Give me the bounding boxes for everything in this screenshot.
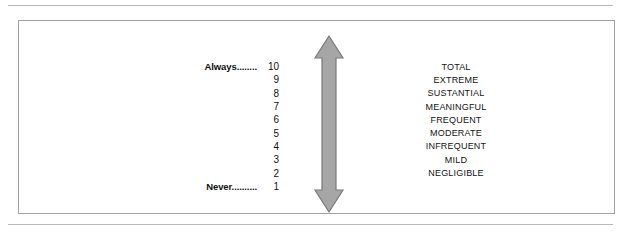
descriptor-label: MILD [445,155,467,165]
descriptor-row: EXTREME [376,73,536,86]
scale-row: Never.......... 1 [169,180,279,193]
scale-row: 9 [169,73,279,86]
descriptor-row: MODERATE [376,126,536,139]
descriptor-row: FREQUENT [376,113,536,126]
scale-number: 10 [261,61,279,72]
scale-row: 3 [169,153,279,166]
descriptor-label: FREQUENT [430,115,481,125]
scale-row: Always........ 10 [169,60,279,73]
double-headed-vertical-arrow-icon [304,34,354,214]
descriptor-label: SUSTANTIAL [428,88,485,98]
scale-number: 1 [261,181,279,192]
horizontal-rule-top [8,5,613,6]
descriptor-label: TOTAL [441,62,470,72]
scale-row: 4 [169,140,279,153]
descriptor-label: NEGLIGIBLE [428,168,484,178]
scale-row: 5 [169,126,279,139]
scale-row: 2 [169,166,279,179]
descriptor-label: MODERATE [430,128,482,138]
anchor-label-never: Never.......... [206,181,257,192]
descriptor-row: MILD [376,153,536,166]
scale-row: 8 [169,87,279,100]
horizontal-rule-bottom [8,224,613,225]
scale-number: 8 [261,88,279,99]
descriptor-row: SUSTANTIAL [376,87,536,100]
rating-scale-figure: Always........ 10 9 8 7 6 5 [18,20,615,214]
scale-number: 7 [261,101,279,112]
descriptor-column: TOTAL EXTREME SUSTANTIAL MEANINGFUL FREQ… [376,60,536,193]
anchor-label-always: Always........ [205,61,257,72]
descriptor-row: MEANINGFUL [376,100,536,113]
scale-number-column: Always........ 10 9 8 7 6 5 [169,60,279,193]
scale-number: 9 [261,74,279,85]
figure-page: Always........ 10 9 8 7 6 5 [0,0,633,233]
scale-row: 7 [169,100,279,113]
descriptor-label: EXTREME [434,75,479,85]
scale-number: 4 [261,141,279,152]
scale-number: 3 [261,154,279,165]
descriptor-row: NEGLIGIBLE [376,166,536,179]
descriptor-row: INFREQUENT [376,140,536,153]
scale-row: 6 [169,113,279,126]
scale-number: 5 [261,128,279,139]
descriptor-label: MEANINGFUL [425,102,486,112]
descriptor-row [376,180,536,193]
descriptor-label: INFREQUENT [426,141,487,151]
scale-number: 6 [261,114,279,125]
descriptor-row: TOTAL [376,60,536,73]
scale-number: 2 [261,168,279,179]
